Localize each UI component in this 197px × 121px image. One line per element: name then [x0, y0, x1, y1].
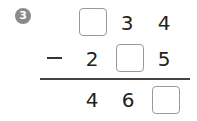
- minuend-ones-digit: 4: [157, 13, 171, 33]
- subtrahend-hundreds-digit: 2: [85, 49, 99, 69]
- difference-ones-answer-box[interactable]: [152, 86, 180, 114]
- subtrahend-tens-answer-box[interactable]: [116, 44, 144, 72]
- difference-hundreds-digit: 4: [85, 90, 99, 110]
- problem-number-badge: 3: [15, 8, 31, 24]
- sum-line: [40, 78, 190, 80]
- minus-sign: [47, 57, 62, 59]
- minuend-hundreds-answer-box[interactable]: [79, 8, 107, 36]
- difference-tens-digit: 6: [121, 90, 135, 110]
- minuend-tens-digit: 3: [120, 13, 134, 33]
- subtrahend-ones-digit: 5: [157, 49, 171, 69]
